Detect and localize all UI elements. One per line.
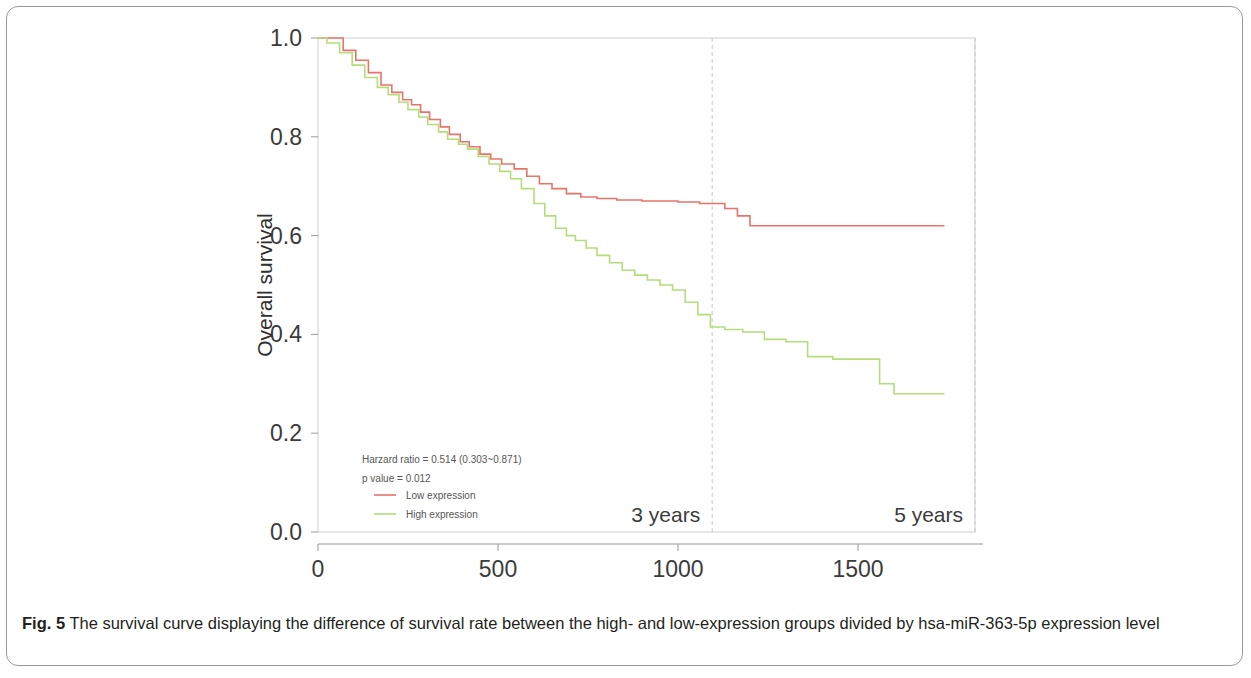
y-axis-tick-label: 0.2 bbox=[270, 420, 302, 446]
year-marker-label: 5 years bbox=[894, 503, 963, 526]
x-axis-tick-label: 1500 bbox=[832, 556, 883, 582]
y-axis-tick-label: 1.0 bbox=[270, 25, 302, 51]
figure-root: 0.00.20.40.60.81.0 050010001500 3 years5… bbox=[0, 0, 1251, 678]
vertical-markers: 3 years5 years bbox=[631, 38, 975, 532]
year-marker-label: 3 years bbox=[631, 503, 700, 526]
p-value-text: p value = 0.012 bbox=[362, 473, 431, 484]
survival-curves bbox=[318, 38, 944, 394]
hazard-ratio-text: Harzard ratio = 0.514 (0.303~0.871) bbox=[362, 454, 522, 465]
legend-label: Low expression bbox=[406, 490, 475, 501]
survival-chart-svg: 0.00.20.40.60.81.0 050010001500 3 years5… bbox=[0, 0, 1251, 600]
x-axis-title: Days bbox=[623, 595, 671, 600]
x-axis-tick-label: 1000 bbox=[652, 556, 703, 582]
x-axis: 050010001500 bbox=[312, 544, 983, 582]
statistics-annotation: Harzard ratio = 0.514 (0.303~0.871) p va… bbox=[362, 454, 522, 484]
survival-curve-high-expression bbox=[318, 38, 944, 394]
survival-chart: 0.00.20.40.60.81.0 050010001500 3 years5… bbox=[0, 0, 1251, 600]
figure-caption-label: Fig. 5 bbox=[22, 614, 65, 632]
survival-curve-low-expression bbox=[318, 38, 944, 226]
y-axis-tick-label: 0.8 bbox=[270, 124, 302, 150]
y-axis-title: Overall survival bbox=[253, 213, 276, 357]
legend-label: High expression bbox=[406, 509, 478, 520]
figure-caption-text: The survival curve displaying the differ… bbox=[65, 614, 1159, 632]
y-axis: 0.00.20.40.60.81.0 bbox=[270, 25, 318, 545]
x-axis-tick-label: 500 bbox=[479, 556, 517, 582]
figure-caption: Fig. 5 The survival curve displaying the… bbox=[22, 612, 1222, 636]
y-axis-tick-label: 0.0 bbox=[270, 519, 302, 545]
x-axis-tick-label: 0 bbox=[312, 556, 325, 582]
chart-legend: Low expressionHigh expression bbox=[374, 490, 478, 520]
